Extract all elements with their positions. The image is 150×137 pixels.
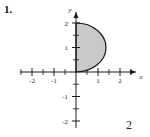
- y-tick-label-2: 2: [65, 20, 69, 28]
- page-number: 2: [126, 118, 132, 133]
- x-tick-label-minus2: -2: [29, 77, 35, 85]
- y-axis-arrowhead: [74, 12, 79, 18]
- problem-number: 1.: [4, 3, 12, 15]
- x-tick-label-2: 2: [118, 77, 122, 85]
- y-tick-label-minus1: -1: [62, 93, 68, 101]
- x-axis-label: x: [138, 73, 143, 81]
- shaded-region: [76, 23, 106, 72]
- figure-container: 1. -2 -1 1: [0, 0, 150, 137]
- coordinate-plot: -2 -1 1 2 2 1 -1 -2 x y: [0, 0, 150, 137]
- x-tick-label-1: 1: [96, 77, 100, 85]
- y-axis-label: y: [67, 6, 72, 14]
- y-tick-label-1: 1: [65, 44, 69, 52]
- x-tick-label-minus1: -1: [51, 77, 57, 85]
- y-tick-label-minus2: -2: [62, 118, 68, 126]
